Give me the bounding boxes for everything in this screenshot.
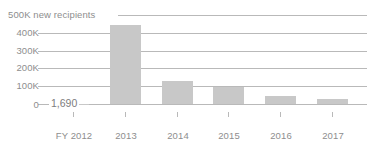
gridline-400k — [38, 33, 367, 34]
gridline-300k — [38, 51, 367, 52]
x-axis-tick-2016 — [280, 112, 281, 117]
bar-chart: 500K new recipients 400K 300K 200K 100K … — [0, 0, 367, 161]
bar-2013 — [110, 25, 141, 104]
x-axis-label-2015: 2015 — [218, 131, 240, 141]
bar-2016 — [265, 96, 296, 104]
y-axis-label-500k: 500K new recipients — [8, 10, 95, 20]
x-axis-tick-2013 — [125, 112, 126, 117]
x-axis-label-2014: 2014 — [167, 131, 189, 141]
bar-2017 — [317, 99, 348, 104]
y-axis-label-200k: 200K — [8, 63, 39, 73]
x-axis-tick-2015 — [228, 112, 229, 117]
y-axis-label-300k: 300K — [8, 46, 39, 56]
x-axis-label-fy-2012: FY 2012 — [56, 131, 92, 141]
bar-2014 — [162, 81, 193, 104]
y-axis-label-100k: 100K — [8, 81, 39, 91]
x-axis-tick-fy-2012 — [73, 112, 74, 117]
gridline-100k — [38, 86, 367, 87]
x-axis-label-2017: 2017 — [322, 131, 344, 141]
gridline-500k — [118, 15, 367, 16]
x-axis-label-2016: 2016 — [270, 131, 292, 141]
y-axis-label-400k: 400K — [8, 28, 39, 38]
value-callout-fy-2012: 1,690 — [49, 98, 79, 109]
bar-2015 — [213, 87, 244, 104]
gridline-200k — [38, 68, 367, 69]
x-axis-label-2013: 2013 — [115, 131, 137, 141]
y-axis-label-0: 0 — [8, 100, 39, 110]
x-axis-tick-2017 — [332, 112, 333, 117]
x-axis-tick-2014 — [177, 112, 178, 117]
